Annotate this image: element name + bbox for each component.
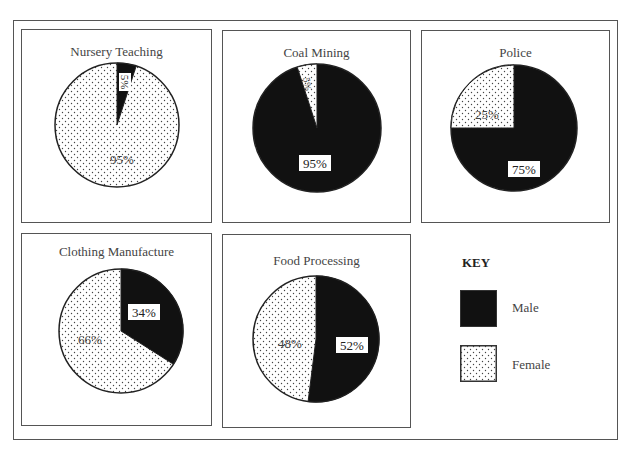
panel-police: Police 25% 75% (421, 30, 610, 223)
pie-label-male: 52% (340, 338, 364, 353)
pie-chart: 5% 95% (22, 30, 213, 224)
pie-label-female: 25% (475, 107, 499, 122)
pie-label-male: 95% (303, 156, 327, 171)
pie-label-male: 75% (512, 162, 536, 177)
pie-label-female: 48% (278, 336, 302, 351)
pie-chart: 25% 75% (422, 31, 611, 224)
panel-food-processing: Food Processing 52% 48% (222, 234, 411, 428)
panel-nursery-teaching: Nursery Teaching 5% 95% (21, 29, 212, 223)
legend: KEY Male Female (460, 255, 580, 405)
panel-clothing-manufacture: Clothing Manufacture 34% 66% (21, 233, 212, 426)
pie-label-male: 5% (119, 75, 131, 90)
pie-chart: 5% 95% (223, 31, 412, 224)
legend-title: KEY (462, 255, 490, 271)
legend-swatch-female (460, 345, 497, 382)
pie-label-male: 34% (132, 305, 156, 320)
pie-label-female: 5% (301, 77, 314, 92)
pie-chart: 34% 66% (22, 234, 213, 427)
pie-label-female: 95% (110, 152, 134, 167)
pie-chart: 52% 48% (223, 235, 412, 429)
legend-label-male: Male (512, 300, 539, 316)
legend-label-female: Female (512, 357, 550, 373)
legend-swatch-male (460, 290, 497, 327)
pie-label-female: 66% (78, 332, 102, 347)
panel-coal-mining: Coal Mining 5% 95% (222, 30, 411, 223)
